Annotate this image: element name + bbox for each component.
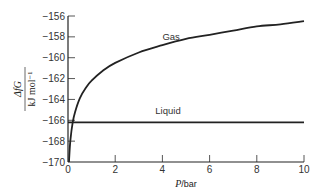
x-tick-label: 4	[160, 164, 166, 175]
liquid-series-label: Liquid	[155, 105, 180, 116]
x-axis-title: P/bar	[174, 178, 197, 189]
x-tick-label: 8	[254, 164, 260, 175]
y-tick-label: −166	[42, 115, 65, 126]
x-tick-label: 2	[112, 164, 118, 175]
x-tick-label: 0	[65, 164, 71, 175]
y-axis-title-denominator: kJ mol⁻¹	[26, 72, 37, 107]
y-tick-label: −162	[42, 73, 65, 84]
x-tick-label: 6	[207, 164, 213, 175]
gas-series-line	[69, 21, 304, 162]
y-axis-title-numerator: ΔfG	[12, 81, 23, 98]
y-tick-label: −158	[42, 31, 65, 42]
y-tick-label: −160	[42, 52, 65, 63]
y-tick-label: −164	[42, 94, 65, 105]
x-axis-ticks: 0246810	[65, 155, 310, 175]
x-axis-title-unit: /bar	[181, 179, 197, 189]
y-tick-label: −156	[42, 11, 65, 22]
y-tick-label: −170	[42, 157, 65, 168]
x-axis-title-variable: P	[174, 178, 181, 189]
y-axis-title: ΔfG kJ mol⁻¹	[12, 67, 37, 111]
x-tick-label: 10	[298, 164, 310, 175]
y-tick-label: −168	[42, 136, 65, 147]
gas-series-label: Gas	[162, 31, 180, 42]
chart-canvas: −170−168−166−164−162−160−158−156 0246810…	[0, 0, 320, 193]
